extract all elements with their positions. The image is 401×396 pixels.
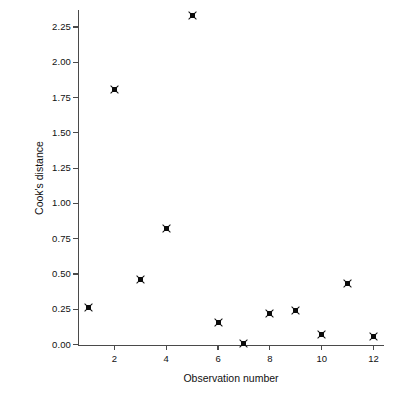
data-point	[264, 308, 275, 319]
y-axis-tick	[73, 97, 78, 98]
data-point	[368, 331, 379, 342]
x-axis-tick-label: 8	[255, 353, 285, 364]
y-axis-tick	[73, 344, 78, 345]
x-axis-tick-label: 6	[203, 353, 233, 364]
y-axis-tick	[73, 273, 78, 274]
y-axis-tick	[73, 132, 78, 133]
x-axis-tick	[166, 345, 167, 350]
data-point	[187, 10, 198, 21]
marker-square	[241, 341, 246, 346]
y-axis-title: Cook's distance	[33, 88, 45, 268]
marker-square	[371, 334, 376, 339]
data-point	[109, 84, 120, 95]
x-axis-tick	[321, 345, 322, 350]
y-axis-tick-label: 0.25	[37, 303, 71, 314]
y-axis-tick	[73, 203, 78, 204]
y-axis-tick-label: 0.50	[37, 268, 71, 279]
y-axis-tick	[73, 26, 78, 27]
cooks-distance-scatter-chart: 0.000.250.500.751.001.251.501.752.002.25…	[0, 0, 401, 396]
x-axis-tick-label: 4	[151, 353, 181, 364]
x-axis-tick	[269, 345, 270, 350]
marker-square	[293, 308, 298, 313]
y-axis-tick	[73, 309, 78, 310]
y-axis-tick-label: 2.00	[37, 56, 71, 67]
y-axis-tick	[73, 238, 78, 239]
x-axis-tick-label: 10	[307, 353, 337, 364]
marker-square	[86, 305, 91, 310]
marker-square	[216, 320, 221, 325]
x-axis-tick	[114, 345, 115, 350]
data-point	[238, 338, 249, 349]
x-axis-title: Observation number	[78, 372, 384, 384]
y-axis-tick-label: 0.00	[37, 339, 71, 350]
marker-square	[345, 281, 350, 286]
y-axis-tick	[73, 62, 78, 63]
marker-square	[138, 277, 143, 282]
data-point	[213, 317, 224, 328]
marker-square	[267, 311, 272, 316]
x-axis-tick	[217, 345, 218, 350]
data-point	[83, 302, 94, 313]
x-axis-tick-label: 2	[99, 353, 129, 364]
data-point	[342, 278, 353, 289]
marker-square	[190, 13, 195, 18]
data-point	[161, 223, 172, 234]
y-axis-line	[78, 10, 79, 346]
y-axis-tick	[73, 168, 78, 169]
data-point	[290, 305, 301, 316]
y-axis-tick-label: 2.25	[37, 21, 71, 32]
data-point	[135, 274, 146, 285]
x-axis-tick-label: 12	[359, 353, 389, 364]
marker-square	[319, 332, 324, 337]
data-point	[316, 329, 327, 340]
marker-square	[112, 87, 117, 92]
x-axis-line	[78, 345, 384, 346]
x-axis-tick	[373, 345, 374, 350]
marker-square	[164, 226, 169, 231]
